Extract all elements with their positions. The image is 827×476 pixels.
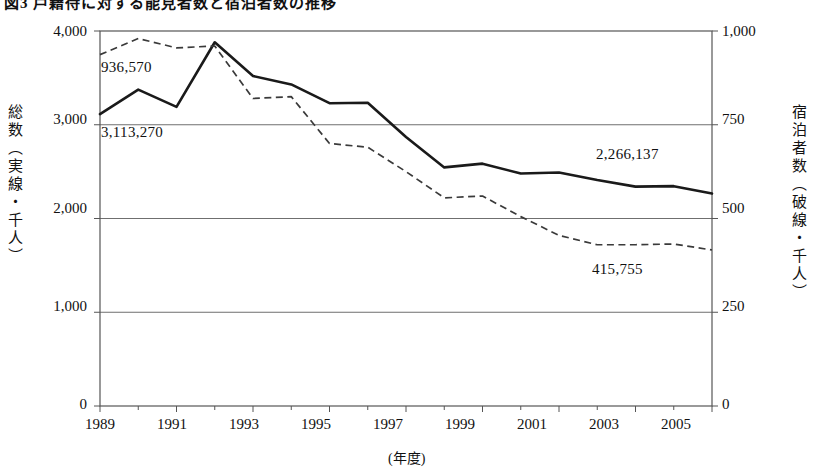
x-axis-ticks <box>100 406 712 412</box>
gridlines <box>100 125 712 313</box>
plot-area <box>0 0 827 476</box>
figure-root: 図3 戸籍待に対する能見者数と宿泊者数の推移 総数（実線・千人） 宿泊者数（破線… <box>0 0 827 476</box>
series-line-total <box>100 42 712 193</box>
